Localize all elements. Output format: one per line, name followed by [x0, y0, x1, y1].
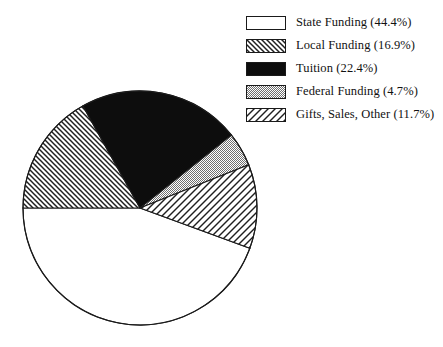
hatch-slash-swatch: [246, 108, 286, 122]
legend-item-local-funding[interactable]: Local Funding (16.9%): [246, 34, 438, 57]
legend-item-federal-funding[interactable]: Federal Funding (4.7%): [246, 80, 438, 103]
chart-legend: State Funding (44.4%) Local Funding (16.…: [246, 11, 438, 126]
hatch-backslash-swatch: [246, 39, 286, 53]
legend-label-local-funding: Local Funding (16.9%): [296, 39, 415, 52]
legend-item-state-funding[interactable]: State Funding (44.4%): [246, 11, 438, 34]
white-swatch: [246, 16, 286, 30]
gray-swatch: [246, 85, 286, 99]
legend-label-state-funding: State Funding (44.4%): [296, 16, 412, 29]
black-swatch: [246, 62, 286, 76]
legend-label-gifts-sales-other: Gifts, Sales, Other (11.7%): [296, 108, 434, 121]
legend-label-federal-funding: Federal Funding (4.7%): [296, 85, 418, 98]
chart-page: State Funding (44.4%) Local Funding (16.…: [0, 0, 443, 347]
legend-label-tuition: Tuition (22.4%): [296, 62, 378, 75]
legend-item-gifts-sales-other[interactable]: Gifts, Sales, Other (11.7%): [246, 103, 438, 126]
legend-item-tuition[interactable]: Tuition (22.4%): [246, 57, 438, 80]
pie-slices: [23, 91, 257, 325]
